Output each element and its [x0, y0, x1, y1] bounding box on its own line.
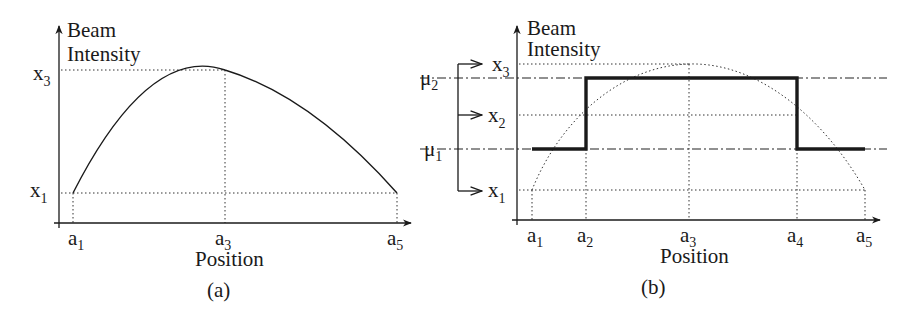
y-tick-x1: x1	[30, 178, 48, 206]
y-tick-x2: x2	[488, 103, 506, 131]
panel-caption: (b)	[641, 275, 666, 299]
x-tick-a2: a2	[577, 223, 593, 250]
intensity-curve	[73, 66, 397, 193]
beam-intensity-figure: Beam Intensity Position (a) x3 x1 a1 a3 …	[0, 0, 913, 322]
panel-a: Beam Intensity Position (a) x3 x1 a1 a3 …	[30, 18, 411, 302]
y-tick-x3: x3	[492, 52, 510, 80]
level-mu2: μ2	[420, 66, 438, 93]
x-tick-a3: a3	[215, 226, 231, 253]
quantized-step-function	[532, 78, 865, 149]
panel-caption: (a)	[207, 278, 230, 302]
y-axis-label-line1: Beam	[67, 18, 116, 42]
level-mu1: μ1	[424, 137, 442, 164]
original-intensity-curve	[532, 64, 865, 190]
panel-b: Beam Intensity Position (b) x3 x2 x1 μ2 …	[420, 16, 887, 299]
y-axis-label-line2: Intensity	[527, 37, 601, 61]
x-tick-a1: a1	[527, 223, 543, 250]
x-tick-a4: a4	[787, 223, 803, 250]
y-tick-x1: x1	[488, 178, 506, 206]
x-tick-a1: a1	[68, 226, 84, 253]
x-tick-a5: a5	[387, 226, 403, 253]
y-axis-label-line2: Intensity	[67, 42, 141, 66]
y-tick-x3: x3	[33, 61, 51, 89]
x-tick-a5: a5	[856, 223, 872, 250]
x-tick-a3: a3	[680, 223, 696, 250]
